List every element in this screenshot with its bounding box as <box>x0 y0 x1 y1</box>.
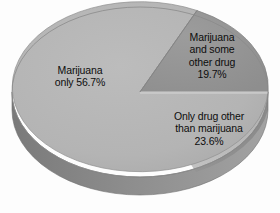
pie-chart-canvas <box>0 0 280 213</box>
pie-chart-figure: Marijuana only 56.7% Marijuana and some … <box>0 0 280 213</box>
